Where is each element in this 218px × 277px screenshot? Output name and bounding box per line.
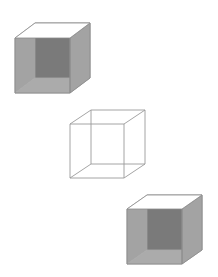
edge [124,164,145,178]
edge [124,110,145,124]
cube-figure [0,0,218,277]
edge [70,110,91,124]
open-shaded-cube-bottom-right [127,195,202,264]
edge [70,164,91,178]
wireframe-cube-center [70,110,145,178]
open-shaded-cube-top-left [15,23,90,93]
